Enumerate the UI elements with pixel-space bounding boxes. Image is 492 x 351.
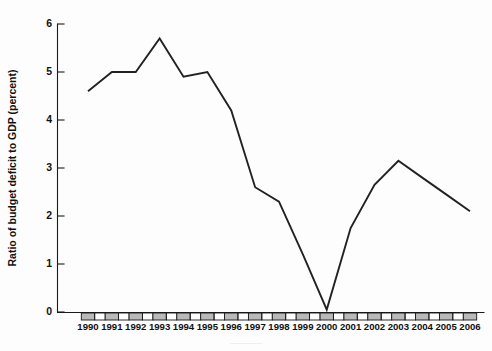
- x-band-gap: [214, 313, 225, 320]
- x-band-segment-2001: [344, 313, 357, 320]
- y-tick-marks: [58, 24, 65, 312]
- x-band-gap: [190, 313, 201, 320]
- x-tick-label-2005: 2005: [435, 321, 457, 332]
- x-band-segment-1995: [201, 313, 214, 320]
- x-band-segment-2003: [392, 313, 405, 320]
- x-tick-label-2004: 2004: [412, 321, 434, 332]
- x-tick-label-1999: 1999: [292, 321, 313, 332]
- x-band-segment-1993: [153, 313, 166, 320]
- x-band-segment-1990: [81, 313, 94, 320]
- x-tick-label-1992: 1992: [125, 321, 146, 332]
- x-band-gap: [405, 313, 416, 320]
- x-tick-label-1993: 1993: [149, 321, 170, 332]
- x-tick-label-2002: 2002: [364, 321, 385, 332]
- x-tick-label-1997: 1997: [244, 321, 265, 332]
- y-tick-label-6: 6: [46, 17, 52, 29]
- x-band-gap: [119, 313, 130, 320]
- page-bleed-artifact: ————: [230, 338, 262, 347]
- x-band-segment-1992: [129, 313, 142, 320]
- x-band-segment-2005: [439, 313, 452, 320]
- x-tick-label-1998: 1998: [268, 321, 290, 332]
- x-tick-labels: 1990199119921993199419951996199719981999…: [77, 321, 480, 332]
- x-band-segment-1997: [248, 313, 261, 320]
- x-band-segment-2002: [368, 313, 381, 320]
- x-band-gap: [262, 313, 273, 320]
- x-tick-label-2000: 2000: [316, 321, 337, 332]
- x-band-gap: [453, 313, 464, 320]
- y-tick-label-0: 0: [46, 305, 52, 317]
- x-band-gap: [286, 313, 297, 320]
- x-band-segment-1994: [177, 313, 190, 320]
- y-tick-label-2: 2: [46, 209, 52, 221]
- x-band-gap: [333, 313, 344, 320]
- x-band-gap: [166, 313, 177, 320]
- line-chart-canvas: 6 5 4 3 2 1 0 Ratio of budget deficit to…: [0, 0, 492, 351]
- y-tick-label-5: 5: [46, 65, 52, 77]
- axis-lines: [58, 24, 485, 313]
- x-band-segment-1999: [296, 313, 309, 320]
- y-tick-label-4: 4: [46, 113, 52, 125]
- y-axis-label: Ratio of budget deficit to GDP (percent): [6, 70, 18, 267]
- chart-figure: 6 5 4 3 2 1 0 Ratio of budget deficit to…: [0, 0, 492, 351]
- x-band-segment-2000: [320, 313, 333, 320]
- x-tick-label-1991: 1991: [101, 321, 123, 332]
- x-band-gap: [95, 313, 106, 320]
- x-band-segment-1998: [272, 313, 285, 320]
- x-tick-label-1995: 1995: [197, 321, 219, 332]
- x-tick-label-1996: 1996: [221, 321, 242, 332]
- x-band-gap: [238, 313, 249, 320]
- x-tick-label-1990: 1990: [77, 321, 98, 332]
- y-tick-label-3: 3: [46, 161, 52, 173]
- x-band-gap: [310, 313, 321, 320]
- x-tick-label-2001: 2001: [340, 321, 362, 332]
- x-tick-label-2006: 2006: [459, 321, 480, 332]
- x-band-gap: [429, 313, 440, 320]
- x-axis-band: [81, 313, 476, 320]
- x-band-gap: [142, 313, 153, 320]
- x-band-segment-2006: [463, 313, 476, 320]
- x-band-segment-2004: [416, 313, 429, 320]
- x-tick-label-1994: 1994: [173, 321, 195, 332]
- axis-group: [58, 24, 485, 313]
- x-band-gap: [357, 313, 368, 320]
- x-band-segment-1996: [225, 313, 238, 320]
- data-series-line: [88, 38, 470, 309]
- y-tick-label-1: 1: [46, 257, 52, 269]
- x-tick-label-2003: 2003: [388, 321, 409, 332]
- x-band-gap: [381, 313, 392, 320]
- x-band-segment-1991: [105, 313, 118, 320]
- y-tick-labels: 6 5 4 3 2 1 0: [46, 17, 52, 317]
